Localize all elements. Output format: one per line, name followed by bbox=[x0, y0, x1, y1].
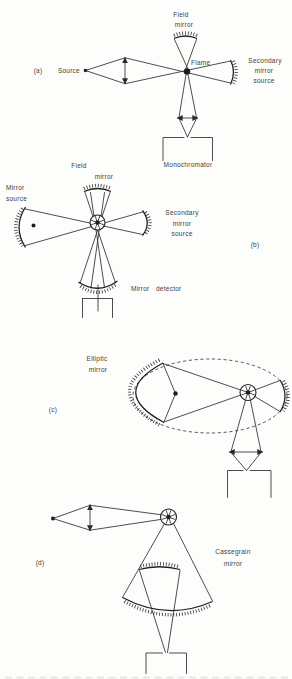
elliptic-rays bbox=[163, 364, 280, 423]
panel-a-monochromator-label: Monochromator bbox=[164, 161, 213, 168]
field-mirror-rays bbox=[175, 40, 197, 73]
panel-d-tag: (d) bbox=[36, 559, 45, 567]
elliptic-mirror bbox=[136, 363, 164, 423]
panel-b-detector-label-line1: Mirror bbox=[131, 285, 150, 292]
panel-c-elliptic-label-line2: mirror bbox=[89, 366, 108, 373]
panel-a-source-label: Source bbox=[58, 67, 80, 74]
flame-center bbox=[246, 390, 250, 394]
source-point bbox=[173, 391, 177, 395]
detector-box bbox=[146, 653, 187, 674]
panel-b-secondary-label-line1: Secondary bbox=[165, 209, 199, 217]
panel-b-field-label-line1: Field bbox=[71, 162, 86, 169]
flame-point bbox=[184, 68, 190, 74]
panel-b-field-label-line2: mirror bbox=[95, 173, 114, 180]
panel-d-cassegrain-label-line2: mirror bbox=[224, 560, 243, 567]
flame-center bbox=[95, 220, 99, 224]
right-mirror-hatching bbox=[284, 381, 289, 411]
flame-to-monochromator-rays bbox=[231, 401, 261, 471]
detector-box bbox=[83, 299, 113, 318]
figure-canvas: Field mirror (a) Source Flame Secondary … bbox=[0, 0, 292, 679]
horizontal-rays bbox=[26, 209, 143, 246]
panel-a-flame-label: Flame bbox=[191, 59, 210, 66]
panel-b: Field mirror Mirror source Secondary mir… bbox=[6, 162, 259, 318]
panel-a-secondary-label-line3: source bbox=[253, 77, 274, 84]
source-to-flame-rays bbox=[53, 505, 167, 530]
source-point bbox=[32, 224, 36, 228]
secondary-mirror bbox=[143, 211, 148, 236]
ellipse-outline-dashed bbox=[133, 359, 287, 433]
primary-mirror-hatching bbox=[125, 602, 211, 615]
field-mirror bbox=[84, 189, 111, 192]
panel-a-field-mirror-label-line1: Field bbox=[173, 11, 188, 18]
monochromator-box bbox=[228, 471, 272, 498]
panel-b-detector-label-line2: detector bbox=[156, 285, 182, 292]
panel-d: (d) Cassegrain mirror bbox=[36, 505, 251, 674]
panel-a-secondary-label-line2: mirror bbox=[255, 67, 274, 74]
panel-a-field-mirror-label-line2: mirror bbox=[175, 21, 194, 28]
panel-a: Field mirror (a) Source Flame Secondary … bbox=[34, 11, 283, 168]
panel-b-secondary-label-line2: mirror bbox=[173, 220, 192, 227]
field-mirror-hatching bbox=[174, 33, 197, 36]
flame-center bbox=[166, 515, 170, 519]
optical-systems-figure: Field mirror (a) Source Flame Secondary … bbox=[0, 0, 292, 679]
panel-b-mirror-source-label-line1: Mirror bbox=[6, 184, 25, 191]
flame-to-primary-mirror-rays bbox=[123, 524, 213, 602]
secondary-mirror-hatching bbox=[141, 564, 179, 567]
flame-to-monochromator-rays bbox=[179, 75, 197, 138]
panel-a-secondary-label-line1: Secondary bbox=[248, 57, 282, 65]
panel-c-elliptic-label-line1: Elliptic bbox=[87, 355, 108, 363]
primary-mirror bbox=[123, 598, 213, 611]
panel-b-tag: (b) bbox=[251, 241, 260, 249]
field-mirror bbox=[174, 36, 197, 39]
secondary-mirror bbox=[231, 60, 234, 85]
panel-d-cassegrain-label-line1: Cassegrain bbox=[215, 548, 251, 556]
panel-b-mirror-source-label-line2: source bbox=[6, 195, 27, 202]
vertical-rays bbox=[80, 193, 116, 289]
secondary-mirror bbox=[139, 567, 180, 570]
source-mirror bbox=[19, 207, 26, 248]
panel-c: Elliptic mirror (c) bbox=[49, 355, 288, 498]
panel-c-tag: (c) bbox=[49, 406, 57, 414]
panel-b-secondary-label-line3: source bbox=[171, 230, 192, 237]
monochromator-box bbox=[163, 138, 213, 161]
panel-a-tag: (a) bbox=[34, 67, 43, 75]
